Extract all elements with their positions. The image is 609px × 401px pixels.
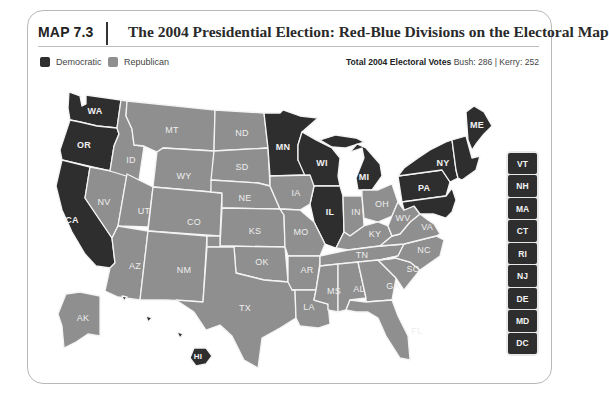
small-states-panel: VT NH MA CT RI NJ DE MD DC [506, 151, 539, 356]
label-TX: TX [239, 303, 251, 313]
label-MN: MN [276, 142, 290, 152]
label-KS: KS [249, 226, 261, 236]
state-CO [148, 187, 222, 236]
label-IL: IL [326, 207, 334, 217]
label-CA: CA [65, 215, 78, 225]
label-NC: NC [417, 245, 430, 255]
label-WY: WY [177, 171, 192, 181]
label-WA: WA [88, 106, 103, 116]
label-NM: NM [177, 265, 191, 275]
label-OH: OH [375, 199, 389, 209]
label-IN: IN [351, 207, 360, 217]
label-MI: MI [359, 172, 369, 182]
label-NY: NY [437, 158, 450, 168]
small-state-DE: DE [508, 288, 537, 309]
label-WI: WI [316, 158, 327, 168]
small-state-RI: RI [508, 243, 537, 264]
label-WV: WV [396, 213, 411, 223]
label-NV: NV [98, 197, 111, 207]
label-AK: AK [77, 313, 89, 323]
label-VA: VA [421, 222, 433, 232]
state-FL [346, 300, 410, 360]
small-state-MA: MA [508, 198, 537, 219]
small-state-NH: NH [508, 175, 537, 196]
small-state-VT: VT [508, 153, 537, 174]
label-FL: FL [412, 326, 423, 336]
label-AZ: AZ [129, 261, 141, 271]
label-OK: OK [255, 257, 268, 267]
state-WY [153, 148, 214, 192]
label-CO: CO [187, 217, 201, 227]
label-HI: HI [194, 352, 202, 361]
label-LA: LA [303, 302, 314, 312]
label-PA: PA [418, 183, 430, 193]
label-KY: KY [369, 229, 381, 239]
label-AR: AR [301, 265, 314, 275]
label-ID: ID [126, 155, 135, 165]
label-SD: SD [236, 162, 249, 172]
label-ME: ME [470, 120, 484, 130]
label-IA: IA [292, 188, 301, 198]
label-AL: AL [353, 284, 364, 294]
label-MT: MT [165, 125, 178, 135]
small-state-CT: CT [508, 220, 537, 241]
label-NE: NE [239, 193, 252, 203]
label-SC: SC [407, 264, 420, 274]
label-ND: ND [235, 128, 248, 138]
state-NM [140, 231, 207, 302]
label-MO: MO [294, 227, 309, 237]
label-OR: OR [77, 140, 91, 150]
small-state-DC: DC [508, 333, 537, 354]
label-TN: TN [356, 250, 368, 260]
label-MS: MS [327, 286, 341, 296]
label-UT: UT [138, 206, 150, 216]
label-GA: GA [386, 281, 399, 291]
small-state-MD: MD [508, 310, 537, 331]
small-state-NJ: NJ [508, 265, 537, 286]
